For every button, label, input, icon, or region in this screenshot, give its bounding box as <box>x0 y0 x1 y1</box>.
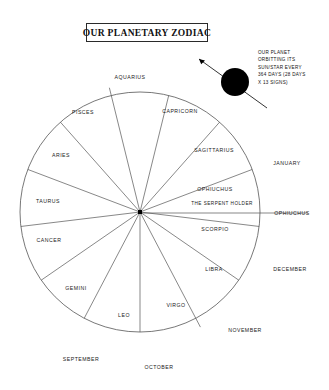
sign-label-sagittarius: SAGITTARIUS <box>194 147 234 153</box>
sign-label-capricorn: CAPRICORN <box>162 108 198 114</box>
outer-label-november: NOVEMBER <box>228 327 262 333</box>
sign-label-aquarius: AQUARIUS <box>114 74 145 80</box>
sign-label-scorpio: SCORPIO <box>201 226 228 232</box>
annotation-line-4: 364 DAYS (28 DAYS <box>258 71 326 78</box>
outer-label-ophiuchus: OPHIUCHUS <box>274 210 310 216</box>
annotation-line-5: X 13 SIGNS) <box>258 79 326 86</box>
sign-label-ophiuchus: OPHIUCHUS <box>197 186 233 192</box>
ophiuchus-subtitle: THE SERPENT HOLDER <box>191 201 253 206</box>
annotation-line-3: SUN/STAR EVERY <box>258 64 326 71</box>
sign-label-taurus: TAURUS <box>36 198 60 204</box>
outer-label-september: SEPTEMBER <box>63 356 100 362</box>
annotation-line-2: ORBITTING ITS <box>258 56 326 63</box>
sign-label-gemini: GEMINI <box>65 285 86 291</box>
sign-label-cancer: CANCER <box>37 237 62 243</box>
annotation-line-1: OUR PLANET <box>258 49 326 56</box>
outer-label-october: OCTOBER <box>144 364 173 370</box>
sign-label-libra: LIBRA <box>205 266 223 272</box>
zodiac-diagram: OUR PLANETARY ZODIAC AQUARIUSPISCESARIES… <box>0 0 329 390</box>
sign-label-leo: LEO <box>118 312 130 318</box>
outer-label-december: DECEMBER <box>273 266 306 272</box>
sign-label-virgo: VIRGO <box>166 302 185 308</box>
planet-annotation: OUR PLANETORBITTING ITSSUN/STAR EVERY364… <box>258 49 326 86</box>
outer-label-january: JANUARY <box>273 160 301 166</box>
sign-label-pisces: PISCES <box>72 109 94 115</box>
sign-label-aries: ARIES <box>52 152 70 158</box>
